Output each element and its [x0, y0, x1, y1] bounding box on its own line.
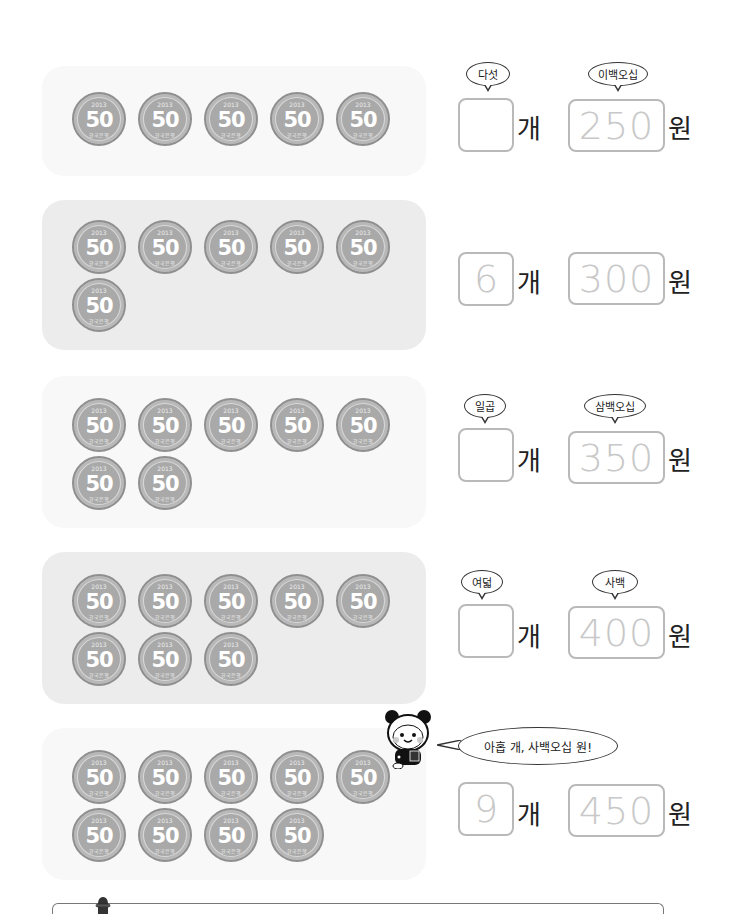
coin-value: 50: [85, 590, 112, 614]
coin-value: 50: [349, 236, 376, 260]
coin-value: 50: [217, 590, 244, 614]
coin-year: 2013: [74, 641, 124, 648]
count-answer-box[interactable]: [458, 98, 514, 152]
coin-group: 201350한국은행201350한국은행201350한국은행201350한국은행…: [72, 750, 390, 862]
coin-issuer: 한국은행: [206, 671, 256, 678]
coin-year: 2013: [206, 641, 256, 648]
coin-value: 50: [85, 414, 112, 438]
coin-50-won-icon: 201350한국은행: [270, 750, 324, 804]
count-unit: 개: [517, 108, 541, 145]
coin-year: 2013: [140, 101, 190, 108]
coin-year: 2013: [140, 465, 190, 472]
coin-value: 50: [349, 108, 376, 132]
coin-issuer: 한국은행: [338, 259, 388, 266]
count-unit: 개: [517, 794, 541, 831]
amount-box[interactable]: 450: [568, 784, 665, 837]
coin-value: 50: [151, 648, 178, 672]
coin-issuer: 한국은행: [74, 259, 124, 266]
coin-50-won-icon: 201350한국은행: [270, 92, 324, 146]
coin-50-won-icon: 201350한국은행: [138, 632, 192, 686]
count-unit: 개: [517, 440, 541, 477]
amount-box[interactable]: 400: [568, 606, 665, 659]
coin-50-won-icon: 201350한국은행: [72, 632, 126, 686]
coin-issuer: 한국은행: [74, 317, 124, 324]
coin-issuer: 한국은행: [74, 131, 124, 138]
coin-year: 2013: [74, 759, 124, 766]
coin-year: 2013: [140, 583, 190, 590]
coin-50-won-icon: 201350한국은행: [204, 92, 258, 146]
coin-50-won-icon: 201350한국은행: [138, 808, 192, 862]
coin-value: 50: [283, 824, 310, 848]
coin-year: 2013: [74, 101, 124, 108]
coin-issuer: 한국은행: [74, 671, 124, 678]
coin-value: 50: [85, 824, 112, 848]
coin-year: 2013: [338, 101, 388, 108]
coin-issuer: 한국은행: [272, 131, 322, 138]
coin-value: 50: [151, 472, 178, 496]
count-hint-bubble: 다섯: [466, 62, 510, 86]
amount-hint-bubble: 이백오십: [588, 62, 648, 86]
coin-50-won-icon: 201350한국은행: [72, 92, 126, 146]
amount-box[interactable]: 350: [568, 431, 665, 484]
coin-value: 50: [151, 590, 178, 614]
footer-box: [52, 903, 664, 914]
coin-issuer: 한국은행: [140, 131, 190, 138]
exercise-1-panel: 201350한국은행201350한국은행201350한국은행201350한국은행…: [42, 66, 426, 176]
coin-issuer: 한국은행: [140, 613, 190, 620]
coin-50-won-icon: 201350한국은행: [270, 398, 324, 452]
count-answer-box[interactable]: [458, 604, 514, 658]
coin-issuer: 한국은행: [140, 437, 190, 444]
coin-50-won-icon: 201350한국은행: [72, 808, 126, 862]
coin-year: 2013: [206, 407, 256, 414]
coin-50-won-icon: 201350한국은행: [204, 574, 258, 628]
count-answer-box[interactable]: [458, 428, 514, 482]
coin-issuer: 한국은행: [272, 613, 322, 620]
coin-year: 2013: [74, 407, 124, 414]
coin-group: 201350한국은행201350한국은행201350한국은행201350한국은행…: [72, 574, 390, 686]
coin-50-won-icon: 201350한국은행: [138, 398, 192, 452]
coin-year: 2013: [74, 583, 124, 590]
coin-50-won-icon: 201350한국은행: [72, 398, 126, 452]
coin-year: 2013: [338, 583, 388, 590]
coin-value: 50: [217, 824, 244, 848]
coin-year: 2013: [140, 759, 190, 766]
coin-year: 2013: [272, 407, 322, 414]
coin-issuer: 한국은행: [140, 671, 190, 678]
count-hint-bubble: 여덟: [461, 570, 503, 594]
coin-50-won-icon: 201350한국은행: [270, 808, 324, 862]
exercise-4-panel: 201350한국은행201350한국은행201350한국은행201350한국은행…: [42, 552, 426, 704]
coin-value: 50: [349, 590, 376, 614]
coin-group: 201350한국은행201350한국은행201350한국은행201350한국은행…: [72, 398, 390, 510]
count-answer-box[interactable]: 6: [458, 252, 514, 306]
coin-issuer: 한국은행: [338, 131, 388, 138]
won-unit: 원: [668, 262, 692, 299]
coin-issuer: 한국은행: [206, 437, 256, 444]
count-answer-box[interactable]: 9: [458, 782, 514, 836]
coin-issuer: 한국은행: [74, 437, 124, 444]
coin-issuer: 한국은행: [74, 495, 124, 502]
coin-issuer: 한국은행: [272, 789, 322, 796]
coin-year: 2013: [338, 407, 388, 414]
coin-issuer: 한국은행: [206, 259, 256, 266]
coin-year: 2013: [272, 759, 322, 766]
won-unit: 원: [668, 794, 692, 831]
amount-box[interactable]: 250: [568, 99, 665, 152]
amount-box[interactable]: 300: [568, 252, 665, 305]
amount-hint-bubble: 삼백오십: [584, 394, 646, 418]
coin-50-won-icon: 201350한국은행: [138, 750, 192, 804]
coin-issuer: 한국은행: [140, 847, 190, 854]
mascot-speech-bubble: 아홉 개, 사백오십 원!: [458, 727, 618, 765]
coin-issuer: 한국은행: [272, 259, 322, 266]
coin-year: 2013: [74, 287, 124, 294]
count-unit: 개: [517, 262, 541, 299]
coin-issuer: 한국은행: [206, 131, 256, 138]
exercise-3-panel: 201350한국은행201350한국은행201350한국은행201350한국은행…: [42, 376, 426, 528]
coin-value: 50: [283, 766, 310, 790]
coin-50-won-icon: 201350한국은행: [336, 398, 390, 452]
coin-year: 2013: [272, 817, 322, 824]
won-unit: 원: [668, 440, 692, 477]
coin-50-won-icon: 201350한국은행: [138, 574, 192, 628]
won-unit: 원: [668, 108, 692, 145]
coin-value: 50: [217, 236, 244, 260]
coin-year: 2013: [140, 817, 190, 824]
